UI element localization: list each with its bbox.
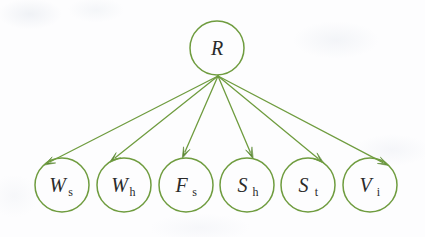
edge-shaft: [185, 76, 218, 152]
edge-R-to-Sh: [218, 76, 253, 159]
node-Vi[interactable]: Vi: [343, 158, 397, 212]
node-label-St: S: [299, 174, 309, 196]
node-sublabel-Ws: s: [68, 185, 73, 199]
node-label-Fs: F: [174, 174, 188, 196]
edge-R-to-Fs: [182, 76, 218, 158]
edge-R-to-Vi: [218, 76, 389, 166]
node-label-Wh: W: [111, 174, 130, 196]
node-label-R: R: [210, 37, 223, 59]
edge-shaft: [218, 76, 318, 158]
node-sublabel-Wh: h: [130, 185, 136, 199]
edges-group: [44, 76, 389, 166]
edge-R-to-Wh: [110, 76, 218, 162]
node-label-Vi: V: [359, 174, 374, 196]
bayesian-network-graph: RWsWhFsShStVi: [0, 0, 425, 237]
node-Sh[interactable]: Sh: [220, 158, 274, 212]
edge-shaft: [50, 76, 218, 162]
node-sublabel-Vi: i: [377, 185, 381, 199]
node-sublabel-Sh: h: [253, 185, 259, 199]
diagram-canvas: RWsWhFsShStVi: [0, 0, 425, 237]
node-Wh[interactable]: Wh: [97, 158, 151, 212]
node-Ws[interactable]: Ws: [35, 158, 89, 212]
edge-R-to-St: [218, 76, 323, 163]
edge-shaft: [115, 76, 218, 158]
node-sublabel-St: t: [315, 185, 319, 199]
edge-shaft: [218, 76, 383, 162]
edge-R-to-Ws: [44, 76, 218, 165]
node-sublabel-Fs: s: [192, 185, 197, 199]
node-St[interactable]: St: [281, 158, 335, 212]
node-root-R[interactable]: R: [190, 21, 244, 75]
edge-shaft: [218, 76, 250, 152]
nodes-group: RWsWhFsShStVi: [35, 21, 397, 212]
node-label-Ws: W: [49, 174, 68, 196]
node-Fs[interactable]: Fs: [159, 158, 213, 212]
node-label-Sh: S: [238, 174, 248, 196]
